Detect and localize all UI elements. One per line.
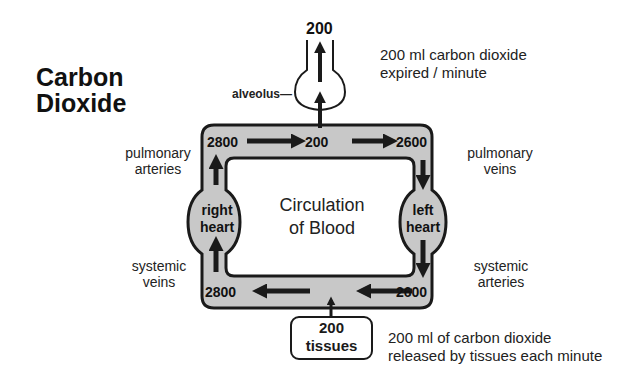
left-heart: left heart xyxy=(396,202,450,236)
title-line1: Carbon xyxy=(36,64,126,90)
tissues-note-line2: released by tissues each minute xyxy=(388,347,602,365)
tissues-label: 200 tissues xyxy=(291,319,372,355)
expired-value: 200 xyxy=(306,20,333,38)
label-line: systemic xyxy=(124,258,194,274)
heart-line: heart xyxy=(190,219,244,236)
value-systemic-veins: 2800 xyxy=(205,284,236,300)
label-pulmonary-arteries: pulmonary arteries xyxy=(118,145,198,177)
label-line: systemic xyxy=(466,258,536,274)
label-systemic-arteries: systemic arteries xyxy=(466,258,536,290)
heart-line: right xyxy=(190,202,244,219)
center-line2: of Blood xyxy=(262,217,382,240)
label-line: veins xyxy=(460,161,540,177)
label-systemic-veins: systemic veins xyxy=(124,258,194,290)
label-line: veins xyxy=(124,274,194,290)
circulation-title: Circulation of Blood xyxy=(262,194,382,240)
diagram-title: Carbon Dioxide xyxy=(36,64,126,116)
expired-note: 200 ml carbon dioxide expired / minute xyxy=(380,46,527,82)
value-lung-capillaries: 200 xyxy=(305,134,328,150)
title-line2: Dioxide xyxy=(36,90,126,116)
right-heart: right heart xyxy=(190,202,244,236)
expired-note-line2: expired / minute xyxy=(380,64,527,82)
expired-note-line1: 200 ml carbon dioxide xyxy=(380,46,527,64)
label-line: pulmonary xyxy=(118,145,198,161)
tissues-note-line1: 200 ml of carbon dioxide xyxy=(388,329,602,347)
tissues-value: 200 xyxy=(291,319,372,337)
heart-line: heart xyxy=(396,219,450,236)
label-line: arteries xyxy=(118,161,198,177)
heart-line: left xyxy=(396,202,450,219)
tissues-note: 200 ml of carbon dioxide released by tis… xyxy=(388,329,602,365)
label-line: pulmonary xyxy=(460,145,540,161)
value-systemic-arteries: 2600 xyxy=(396,284,427,300)
tissues-text: tissues xyxy=(291,337,372,355)
value-pulmonary-veins: 2600 xyxy=(396,134,427,150)
center-line1: Circulation xyxy=(262,194,382,217)
label-pulmonary-veins: pulmonary veins xyxy=(460,145,540,177)
value-pulmonary-arteries: 2800 xyxy=(207,134,238,150)
alveolus-label: alveolus— xyxy=(232,86,292,102)
label-line: arteries xyxy=(466,274,536,290)
